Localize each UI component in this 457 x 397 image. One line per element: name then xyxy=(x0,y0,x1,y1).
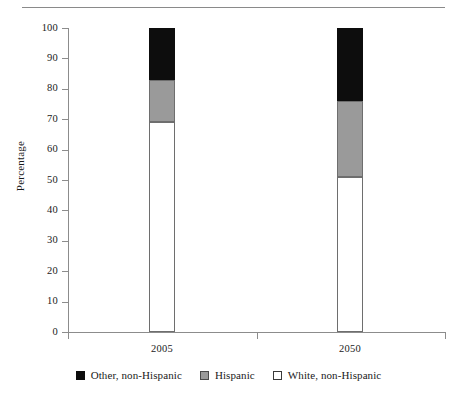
bar-2050-segment-hispanic[interactable] xyxy=(337,101,363,177)
legend-item-other-non-hispanic[interactable]: Other, non-Hispanic xyxy=(76,369,182,381)
gray-square-icon xyxy=(200,371,209,380)
y-tick-50 xyxy=(62,180,68,181)
y-tick-label-30: 30 xyxy=(18,235,58,246)
y-axis-title: Percentage xyxy=(14,116,26,216)
x-tick-left-edge xyxy=(68,332,69,339)
y-tick-label-80: 80 xyxy=(18,83,58,94)
legend-label-white-non-hispanic: White, non-Hispanic xyxy=(288,369,382,381)
y-tick-40 xyxy=(62,210,68,211)
y-tick-80 xyxy=(62,89,68,90)
y-tick-label-70: 70 xyxy=(18,114,58,125)
bar-2005-segment-hispanic[interactable] xyxy=(149,80,175,123)
y-tick-100 xyxy=(62,28,68,29)
y-tick-10 xyxy=(62,302,68,303)
y-tick-30 xyxy=(62,241,68,242)
bar-2050[interactable] xyxy=(337,28,363,332)
legend-label-hispanic: Hispanic xyxy=(215,369,255,381)
y-tick-20 xyxy=(62,271,68,272)
bar-2005[interactable] xyxy=(149,28,175,332)
legend-item-hispanic[interactable]: Hispanic xyxy=(200,369,255,381)
legend-label-other-non-hispanic: Other, non-Hispanic xyxy=(91,369,182,381)
y-tick-label-60: 60 xyxy=(18,144,58,155)
x-tick-midpoint xyxy=(257,332,258,339)
bar-2050-segment-other-non-hispanic[interactable] xyxy=(337,28,363,101)
y-tick-label-40: 40 xyxy=(18,205,58,216)
x-tick-label-2050: 2050 xyxy=(310,343,390,355)
bar-2050-segment-white-non-hispanic[interactable] xyxy=(337,177,363,332)
y-tick-70 xyxy=(62,119,68,120)
y-tick-label-10: 10 xyxy=(18,296,58,307)
y-tick-60 xyxy=(62,150,68,151)
chart-legend: Other, non-Hispanic Hispanic White, non-… xyxy=(0,364,457,386)
black-square-icon xyxy=(76,371,85,380)
y-tick-label-0: 0 xyxy=(18,327,58,338)
white-square-icon xyxy=(273,371,282,380)
y-tick-label-100: 100 xyxy=(18,23,58,34)
y-tick-90 xyxy=(62,58,68,59)
bar-2005-segment-white-non-hispanic[interactable] xyxy=(149,122,175,332)
plot-area: Percentage 100 90 80 70 60 50 40 30 20 1… xyxy=(0,0,457,397)
y-axis-line xyxy=(68,28,69,332)
x-tick-right-edge xyxy=(445,332,446,339)
y-tick-label-20: 20 xyxy=(18,266,58,277)
y-tick-label-50: 50 xyxy=(18,175,58,186)
bar-2005-segment-other-non-hispanic[interactable] xyxy=(149,28,175,80)
x-tick-label-2005: 2005 xyxy=(122,343,202,355)
y-tick-label-90: 90 xyxy=(18,53,58,64)
legend-item-white-non-hispanic[interactable]: White, non-Hispanic xyxy=(273,369,382,381)
figure-container: Percentage 100 90 80 70 60 50 40 30 20 1… xyxy=(0,0,457,397)
